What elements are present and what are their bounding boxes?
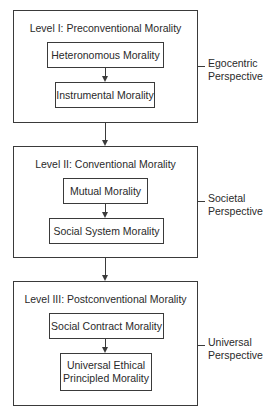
perspective-egocentric: Egocentric Perspective — [208, 57, 263, 83]
stage-instrumental-morality: Instrumental Morality — [55, 82, 155, 108]
perspective-tick — [198, 201, 205, 202]
stage-label: Heteronomous Morality — [51, 49, 160, 62]
connector-line — [105, 123, 106, 141]
stage-label: Social Contract Morality — [51, 320, 162, 333]
stage-label: Instrumental Morality — [56, 89, 153, 102]
stage-heteronomous-morality: Heteronomous Morality — [47, 42, 164, 68]
perspective-societal: Societal Perspective — [208, 192, 263, 218]
level-1-title: Level I: Preconventional Morality — [13, 22, 198, 34]
stage-label-line-2: Principled Morality — [63, 372, 149, 385]
stage-universal-ethical-principled-morality: Universal Ethical Principled Morality — [60, 353, 152, 391]
stage-label: Social System Morality — [53, 225, 159, 238]
perspective-universal: Universal Perspective — [208, 336, 263, 362]
perspective-tick — [198, 345, 205, 346]
perspective-tick — [198, 66, 205, 67]
stage-label: Mutual Morality — [70, 185, 141, 198]
stage-social-system-morality: Social System Morality — [49, 218, 164, 244]
stage-social-contract-morality: Social Contract Morality — [49, 313, 164, 339]
level-2-title: Level II: Conventional Morality — [13, 158, 198, 170]
stage-label-line-1: Universal Ethical — [67, 359, 145, 372]
stage-mutual-morality: Mutual Morality — [63, 178, 148, 204]
level-3-title: Level III: Postconventional Morality — [13, 293, 198, 305]
connector-line — [105, 258, 106, 276]
